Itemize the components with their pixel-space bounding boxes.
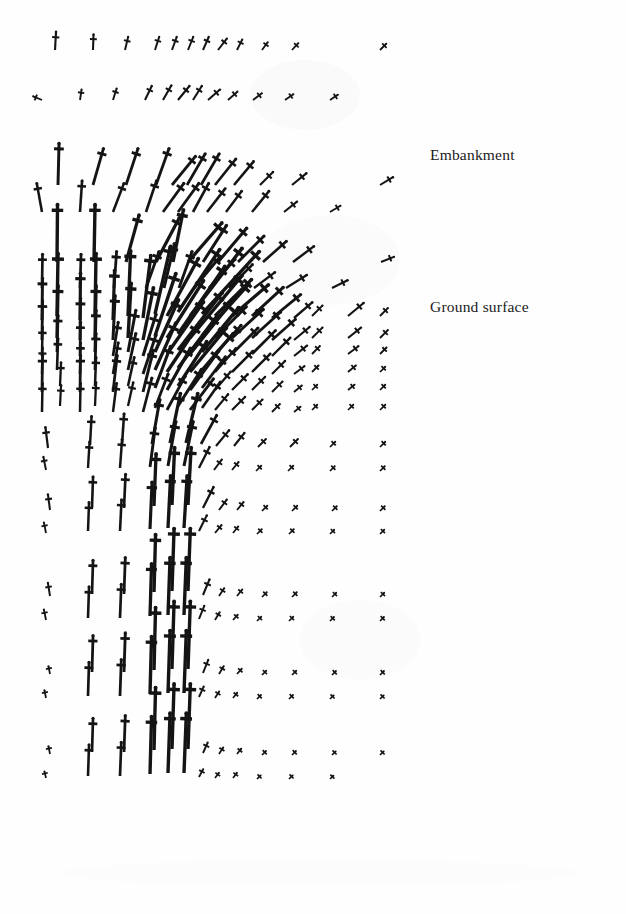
vector-tip <box>154 452 158 456</box>
vector-shaft <box>44 523 46 533</box>
vector-tip <box>228 429 231 432</box>
vector-tip <box>237 614 239 616</box>
vector-tip <box>43 522 45 524</box>
vector-tip <box>166 373 169 376</box>
vector-tip <box>176 36 178 38</box>
vector-tip <box>41 354 44 357</box>
vector-tip <box>154 313 158 317</box>
vector-tip <box>281 380 283 382</box>
vector-tip <box>353 384 355 386</box>
vector-tip <box>265 438 267 440</box>
vector-tip <box>56 252 60 256</box>
vector-tip <box>226 37 228 39</box>
vector-tip <box>60 384 63 387</box>
vector-tip <box>292 93 294 95</box>
vector-tip <box>392 176 394 178</box>
vector-arrowhead <box>35 95 37 101</box>
vector-tip <box>79 382 82 385</box>
vector-tip <box>261 308 264 311</box>
vector-tip <box>150 377 153 380</box>
vector-tip <box>170 84 172 86</box>
vector-tip <box>150 480 154 484</box>
vector-tip <box>239 324 242 327</box>
vector-tip <box>196 323 200 327</box>
vector-tip <box>151 85 153 87</box>
vector-tip <box>129 249 133 253</box>
vector-tip <box>384 404 386 406</box>
vector-tip <box>168 711 172 715</box>
vector-tip <box>362 302 365 305</box>
vector-tip <box>215 314 219 318</box>
vector-arrowhead <box>203 450 210 453</box>
vector-tip <box>127 36 129 38</box>
vector-shaft <box>48 746 50 754</box>
vector-tip <box>269 352 272 355</box>
vector-shaft <box>168 476 171 528</box>
vector-tip <box>296 505 298 507</box>
vector-tip <box>384 441 386 443</box>
vector-tip <box>230 300 234 304</box>
vector-arrowhead <box>41 612 47 613</box>
vector-arrowhead <box>181 481 192 482</box>
vector-tip <box>261 92 263 94</box>
vector-tip <box>92 33 94 35</box>
vector-tip <box>384 366 386 368</box>
vector-tip <box>274 329 277 332</box>
vector-tip <box>301 384 303 386</box>
vector-tip <box>124 631 127 634</box>
vector-tip <box>218 690 220 692</box>
vector-shaft <box>184 631 186 693</box>
vector-arrowhead <box>177 214 188 216</box>
vector-tip <box>240 190 243 193</box>
vector-shaft <box>203 660 208 673</box>
vector-tip <box>260 694 262 696</box>
vector-tip <box>185 474 189 478</box>
vector-tip <box>134 332 137 335</box>
vector-tip <box>293 528 295 530</box>
vector-arrowhead <box>125 289 136 290</box>
vector-arrowhead <box>78 92 84 93</box>
vector-tip <box>222 746 224 748</box>
vector-tip <box>257 250 261 254</box>
vector-tip <box>115 250 118 253</box>
vector-tip <box>308 326 311 329</box>
vector-shaft <box>113 89 117 100</box>
vector-tip <box>152 349 155 352</box>
vector-tip <box>236 772 238 774</box>
vector-tip <box>94 252 98 256</box>
vector-tip <box>60 361 63 364</box>
vector-tip <box>262 234 265 237</box>
vector-tip <box>92 475 95 478</box>
vector-tip <box>120 741 123 744</box>
vector-tip <box>256 326 259 329</box>
vector-tip <box>167 147 170 150</box>
vector-tip <box>174 420 178 424</box>
vector-arrowhead <box>204 663 210 666</box>
vector-tip <box>154 333 157 336</box>
vector-tip <box>244 396 246 398</box>
vector-tip <box>384 465 386 467</box>
vector-arrowhead <box>164 350 173 354</box>
vector-tip <box>241 588 243 590</box>
vector-tip <box>206 514 208 516</box>
vector-tip <box>154 686 158 690</box>
vector-tip <box>234 347 237 350</box>
vector-tip <box>303 365 305 367</box>
vector-tip <box>297 438 299 440</box>
vector-tip <box>189 446 193 450</box>
vector-tip <box>81 179 84 182</box>
vector-tip <box>47 665 49 667</box>
vector-arrowhead <box>150 339 159 342</box>
vector-tip <box>355 364 357 366</box>
vector-tip <box>261 398 263 400</box>
vector-tip <box>56 284 60 288</box>
vector-shaft <box>45 427 48 448</box>
vector-tip <box>88 441 91 444</box>
vector-tip <box>296 591 298 593</box>
vector-arrowhead <box>165 481 176 482</box>
vector-arrowhead <box>97 153 106 156</box>
vector-tip <box>173 242 177 246</box>
vector-arrowhead <box>169 326 179 330</box>
vector-tip <box>284 360 286 362</box>
vector-tip <box>155 179 158 182</box>
